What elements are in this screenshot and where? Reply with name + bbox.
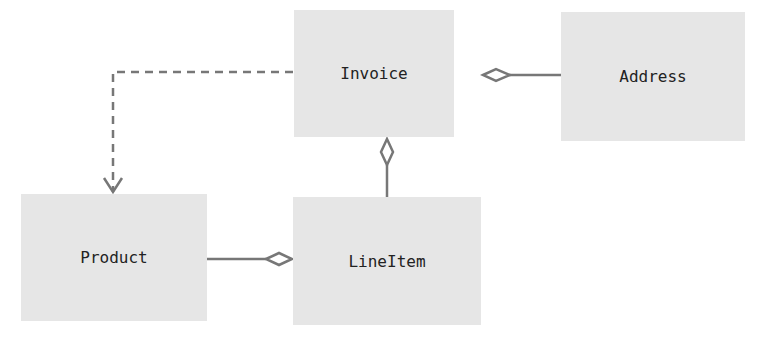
open-arrow-icon [104, 178, 122, 192]
class-box-lineitem[interactable]: LineItem [293, 197, 481, 325]
class-box-address[interactable]: Address [561, 12, 745, 141]
class-label: Product [80, 248, 147, 267]
hollow-diamond-icon [483, 69, 510, 81]
hollow-diamond-icon [266, 253, 292, 265]
class-label: LineItem [348, 252, 425, 271]
class-box-product[interactable]: Product [21, 194, 207, 321]
class-label: Address [619, 67, 686, 86]
aggregation-edge-product-lineitem [207, 253, 292, 265]
class-label: Invoice [340, 64, 407, 83]
class-box-invoice[interactable]: Invoice [294, 10, 454, 137]
aggregation-edge-lineitem-invoice [381, 139, 393, 197]
aggregation-edge-address-invoice [483, 69, 561, 81]
dependency-edge-invoice-product [104, 72, 293, 192]
hollow-diamond-icon [381, 139, 393, 165]
